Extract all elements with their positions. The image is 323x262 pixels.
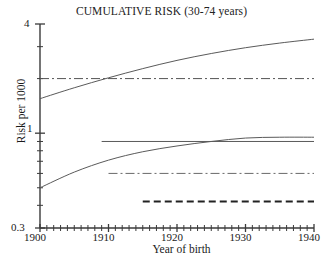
series-line-upper-rising-curve (40, 39, 314, 99)
x-axis-label: Year of birth (40, 243, 323, 255)
x-tick-label: 1910 (93, 231, 115, 243)
x-tick-label: 1940 (298, 231, 320, 243)
x-tick-label: 1900 (24, 231, 46, 243)
y-tick-label-bottom: 0.3 (11, 221, 25, 233)
y-axis-label: Risk per 1000 (15, 61, 27, 161)
x-tick-label: 1920 (161, 231, 183, 243)
series-line-lower-rising-curve (40, 137, 314, 188)
chart-figure: CUMULATIVE RISK (30-74 years) 4 1 0.3 19… (0, 0, 323, 262)
x-tick-label: 1930 (230, 231, 252, 243)
plot-area (0, 0, 323, 262)
y-tick-label-top: 4 (24, 17, 30, 29)
y-tick-label-middle: 1 (27, 122, 33, 134)
data-series-group (40, 39, 314, 201)
axis-lines (40, 24, 314, 228)
